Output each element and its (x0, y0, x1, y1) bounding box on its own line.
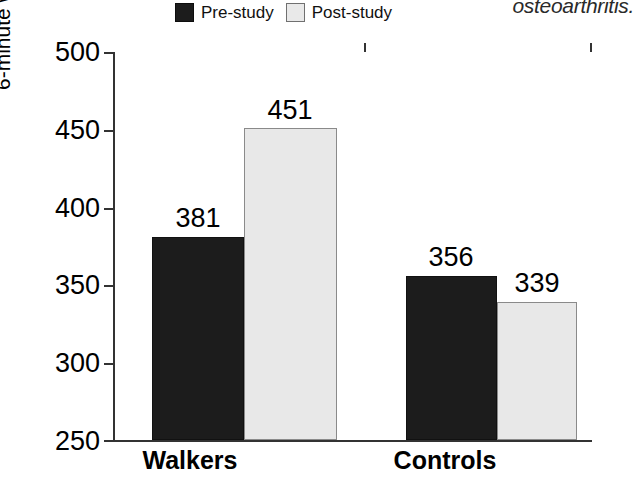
bar-value-controls-pre-study: 356 (390, 243, 512, 271)
x-axis-line (113, 440, 592, 442)
y-tick-300 (104, 363, 113, 365)
y-tick-250 (104, 440, 113, 442)
y-tick-label-400: 400 (55, 194, 100, 221)
bar-walkers-post-study[interactable] (244, 128, 337, 440)
legend-label-post-study: Post-study (312, 3, 392, 22)
y-tick-label-500: 500 (55, 39, 100, 66)
plot-area: 381 451 356 339 (113, 52, 592, 440)
x-group-label-walkers: Walkers (90, 446, 290, 474)
legend-item-pre-study: Pre-study (175, 3, 274, 22)
legend-swatch-pre-study-icon (175, 3, 194, 22)
x-tick-group-separator (364, 43, 366, 52)
bar-value-controls-post-study: 339 (476, 269, 598, 297)
bar-controls-pre-study[interactable] (406, 276, 497, 441)
y-tick-450 (104, 130, 113, 132)
x-group-label-controls: Controls (345, 446, 545, 474)
y-tick-350 (104, 285, 113, 287)
y-tick-label-300: 300 (55, 350, 100, 377)
bar-value-walkers-post-study: 451 (229, 96, 351, 124)
y-tick-400 (104, 208, 113, 210)
x-tick-right-end (590, 43, 592, 52)
legend-item-post-study: Post-study (286, 3, 392, 22)
bar-value-walkers-pre-study: 381 (137, 204, 259, 232)
legend-label-pre-study: Pre-study (201, 3, 274, 22)
y-tick-500 (104, 52, 113, 54)
y-tick-label-350: 350 (55, 272, 100, 299)
bar-walkers-pre-study[interactable] (152, 237, 244, 440)
chart-legend: Pre-study Post-study (175, 0, 392, 24)
y-axis-tick-labels: 250 300 350 400 450 500 (0, 52, 106, 441)
y-tick-label-450: 450 (55, 116, 100, 143)
y-axis-line (113, 52, 115, 441)
legend-swatch-post-study-icon (286, 3, 305, 22)
caption-fragment-text: osteoarthritis. (512, 0, 634, 16)
bar-controls-post-study[interactable] (497, 302, 577, 440)
chart-page: osteoarthritis. Pre-study Post-study 6-m… (0, 0, 640, 482)
